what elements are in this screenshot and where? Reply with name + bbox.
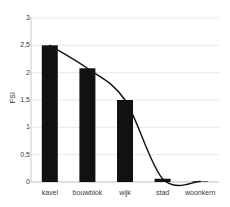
x-axis-tick-label: woonkern: [185, 189, 215, 196]
bar: [117, 100, 133, 182]
plot-area: [0, 0, 230, 207]
x-axis-tick-label: bouwblok: [73, 189, 103, 196]
fsi-bar-chart: FSI 32,521,510,50 kavelbouwblokwijkstadw…: [0, 0, 230, 207]
bar-series: [42, 45, 208, 182]
bar: [79, 68, 95, 182]
x-axis-tick-label: stad: [156, 189, 169, 196]
x-axis-tick-label: kavel: [42, 189, 58, 196]
bar: [42, 45, 58, 182]
x-axis-tick-label: wijk: [119, 189, 131, 196]
